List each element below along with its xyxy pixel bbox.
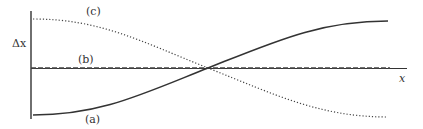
y-axis-label: Δx [12, 38, 26, 49]
y-axis-label-text: Δx [12, 37, 26, 50]
x-axis-label: x [399, 73, 405, 84]
displacement-plot [0, 0, 423, 129]
label-c: (c) [86, 6, 101, 17]
label-a: (a) [85, 114, 100, 125]
label-b: (b) [78, 54, 94, 65]
